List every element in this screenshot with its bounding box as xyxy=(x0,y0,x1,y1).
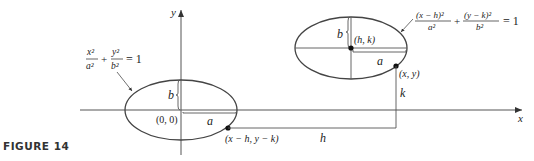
left-equation: x² a² + y² b² = 1 xyxy=(86,47,142,91)
k-label: k xyxy=(400,86,406,100)
right-eq-plus: + xyxy=(454,15,460,27)
right-point-label: (x, y) xyxy=(399,68,420,80)
left-eq-num2: y² xyxy=(111,47,119,57)
right-eq-den1: a² xyxy=(428,22,436,32)
left-a-label: a xyxy=(207,114,213,128)
y-axis-label: y xyxy=(170,6,176,18)
right-eq-equals: = 1 xyxy=(503,14,519,28)
left-eq-pointer xyxy=(117,72,132,91)
left-eq-den2: b² xyxy=(111,61,119,71)
right-eq-num2: (y − k)² xyxy=(464,10,492,20)
center-label: (h, k) xyxy=(354,34,376,46)
left-b-brace xyxy=(176,80,180,110)
right-b-label: b xyxy=(337,27,343,41)
center-point xyxy=(348,45,353,50)
left-eq-num1: x² xyxy=(86,47,94,57)
left-a-brace xyxy=(183,112,236,113)
right-a-brace xyxy=(353,50,406,52)
right-eq-pointer xyxy=(401,19,413,32)
right-equation: (x − h)² a² + (y − k)² b² = 1 xyxy=(401,10,519,32)
right-b-brace xyxy=(346,17,350,48)
right-ellipse-group: b a (h, k) (x, y) xyxy=(295,17,420,80)
left-eq-den1: a² xyxy=(86,61,94,71)
translation-path xyxy=(228,66,396,128)
h-label: h xyxy=(320,131,326,145)
figure-caption: FIGURE 14 xyxy=(3,140,69,152)
right-a-label: a xyxy=(377,54,383,68)
left-eq-plus: + xyxy=(101,53,107,65)
ellipse-translation-diagram: x y b a (0, 0) (x − h, y − k) x² a² + y²… xyxy=(0,0,534,161)
left-point-label: (x − h, y − k) xyxy=(225,133,279,145)
right-eq-den2: b² xyxy=(476,22,484,32)
left-eq-equals: = 1 xyxy=(126,52,142,66)
x-axis-label: x xyxy=(517,112,523,124)
origin-label: (0, 0) xyxy=(156,114,178,126)
right-eq-num1: (x − h)² xyxy=(416,10,444,20)
left-b-label: b xyxy=(168,88,174,102)
left-ellipse-group: b a (0, 0) (x − h, y − k) xyxy=(125,80,279,145)
